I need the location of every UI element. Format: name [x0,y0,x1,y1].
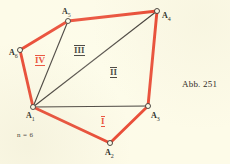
region-label-iii: III [74,45,85,56]
region-label-i: I [101,116,105,127]
figure-abb-251: A1 A2 A3 A4 A5 A6 I II III IV Abb. 251 n… [0,0,230,164]
vertex-marker-a6 [18,48,23,53]
region-label-iv: IV [35,55,45,66]
vertex-label-a5: A5 [62,8,71,18]
vertex-label-a3: A3 [151,112,160,122]
vertex-marker-a3 [146,104,151,109]
parameter-note: n = 6 [17,131,33,139]
vertex-marker-a5 [66,19,71,24]
vertex-label-a4: A4 [162,12,171,22]
region-label-ii: II [110,67,117,78]
figure-caption: Abb. 251 [182,79,217,89]
vertex-label-a1: A1 [26,112,35,122]
vertex-label-a6: A6 [9,49,18,59]
vertex-marker-a2 [108,141,113,146]
diagonal-a1-a4 [33,11,157,107]
vertex-marker-a1 [31,105,36,110]
hexagon-outline [20,11,157,143]
vertex-marker-a4 [155,9,160,14]
diagonal-a1-a3 [33,106,148,107]
vertex-label-a2: A2 [105,149,114,159]
